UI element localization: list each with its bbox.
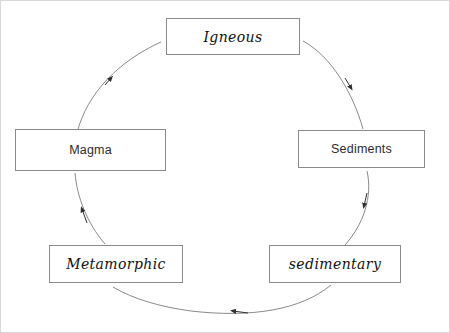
node-sediments-label: Sediments <box>331 142 392 156</box>
node-metamorphic-label: Metamorphic <box>66 256 166 272</box>
arrow-sedimentary-to-metamorphic-head <box>233 311 248 313</box>
arrow-sedimentary-to-metamorphic <box>113 285 331 313</box>
rock-cycle-diagram: Igneous Sediments sedimentary Metamorphi… <box>0 0 450 333</box>
arrow-magma-to-igneous <box>77 42 161 133</box>
arrow-metamorphic-to-magma <box>75 173 105 244</box>
node-magma[interactable]: Magma <box>15 129 166 171</box>
arrow-igneous-to-sediments <box>303 41 363 129</box>
node-sedimentary-label: sedimentary <box>289 256 381 272</box>
node-igneous[interactable]: Igneous <box>166 18 300 55</box>
node-sedimentary[interactable]: sedimentary <box>269 245 401 283</box>
node-igneous-label: Igneous <box>203 29 262 45</box>
node-metamorphic[interactable]: Metamorphic <box>49 245 183 283</box>
node-magma-label: Magma <box>69 143 112 157</box>
node-sediments[interactable]: Sediments <box>298 130 425 168</box>
arrow-sediments-to-sedimentary <box>345 171 369 245</box>
